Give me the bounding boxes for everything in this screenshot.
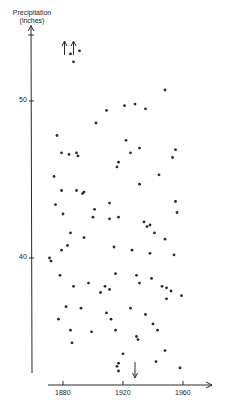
data-point xyxy=(105,312,108,315)
data-point xyxy=(77,155,80,158)
data-point xyxy=(68,153,71,156)
data-point xyxy=(144,107,147,110)
data-point xyxy=(122,352,125,355)
y-axis xyxy=(31,25,32,373)
data-point xyxy=(72,60,75,63)
data-point xyxy=(50,260,53,263)
data-point xyxy=(174,148,177,151)
data-point xyxy=(92,216,95,219)
data-point xyxy=(95,122,98,125)
y-tick-label-40: 40 xyxy=(19,253,27,260)
data-point xyxy=(144,313,147,316)
data-point xyxy=(171,156,174,159)
data-point xyxy=(114,329,117,332)
y-axis-label-line1: Precipitation xyxy=(0,9,64,17)
data-point xyxy=(62,213,65,216)
data-point xyxy=(125,139,128,142)
data-point xyxy=(164,89,167,92)
data-point xyxy=(138,183,141,186)
data-point xyxy=(48,257,51,260)
data-point xyxy=(180,294,183,297)
data-point xyxy=(129,151,132,154)
data-point xyxy=(152,323,155,326)
data-point xyxy=(138,282,141,285)
data-point xyxy=(165,286,168,289)
data-point xyxy=(83,236,86,239)
data-point xyxy=(138,147,141,150)
data-point xyxy=(78,49,81,52)
data-point xyxy=(71,341,74,344)
data-point xyxy=(60,189,63,192)
data-point xyxy=(117,216,120,219)
data-point xyxy=(83,191,86,194)
data-point xyxy=(53,175,56,178)
data-point xyxy=(116,166,119,169)
data-point xyxy=(69,53,72,56)
data-point xyxy=(75,151,78,154)
data-point xyxy=(134,103,137,106)
data-point xyxy=(69,329,72,332)
data-point xyxy=(164,349,167,352)
data-point xyxy=(87,282,90,285)
scatter-chart xyxy=(0,0,236,415)
axes xyxy=(28,25,212,388)
data-point xyxy=(135,274,138,277)
data-point xyxy=(179,367,182,370)
data-point xyxy=(104,285,107,288)
data-point xyxy=(90,330,93,333)
data-point xyxy=(105,109,108,112)
arrow-up-icon xyxy=(62,41,67,55)
data-point xyxy=(80,307,83,310)
data-point xyxy=(155,360,158,363)
data-point xyxy=(117,370,120,373)
data-point xyxy=(143,221,146,224)
data-point xyxy=(59,274,62,277)
arrow-down-icon xyxy=(133,362,138,378)
x-tick-label-1880: 1880 xyxy=(55,389,71,396)
data-point xyxy=(117,362,120,365)
data-point xyxy=(135,335,138,338)
x-tick-label-1960: 1960 xyxy=(175,389,191,396)
data-point xyxy=(117,161,120,164)
arrow-up-icon xyxy=(71,41,76,55)
data-point xyxy=(66,244,69,247)
data-point xyxy=(174,200,177,203)
data-point xyxy=(150,277,153,280)
y-axis-label: Precipitation (inches) xyxy=(0,9,64,25)
data-point xyxy=(116,365,119,368)
data-point xyxy=(164,238,167,241)
x-tick-label-1920: 1920 xyxy=(115,389,131,396)
data-point xyxy=(60,151,63,154)
data-point xyxy=(56,134,59,137)
data-point xyxy=(57,318,60,321)
data-point xyxy=(60,249,63,252)
data-point xyxy=(114,272,117,275)
data-point xyxy=(161,285,164,288)
data-point xyxy=(149,224,152,227)
data-point xyxy=(108,217,111,220)
data-point xyxy=(113,246,116,249)
data-point xyxy=(173,254,176,257)
data-point xyxy=(165,297,168,300)
data-point xyxy=(123,104,126,107)
data-point xyxy=(176,211,179,214)
data-point xyxy=(108,288,111,291)
data-point xyxy=(153,232,156,235)
data-point xyxy=(75,189,78,192)
annotations xyxy=(62,41,138,378)
data-point xyxy=(54,203,57,206)
data-point xyxy=(93,208,96,211)
data-point xyxy=(69,232,72,235)
data-point xyxy=(156,329,159,332)
data-point xyxy=(99,291,102,294)
data-point xyxy=(110,318,113,321)
data-point xyxy=(170,290,173,293)
data-points xyxy=(48,49,183,372)
data-point xyxy=(137,338,140,341)
data-point xyxy=(149,252,152,255)
data-point xyxy=(158,173,161,176)
data-point xyxy=(65,305,68,308)
data-point xyxy=(146,225,149,228)
y-tick-label-50: 50 xyxy=(19,96,27,103)
y-axis-label-line2: (inches) xyxy=(0,17,64,25)
